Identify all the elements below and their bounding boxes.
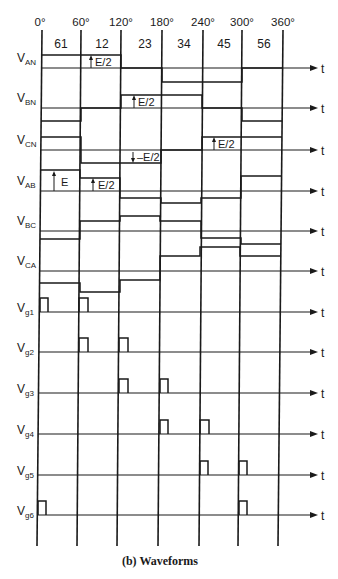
interval-label: 61: [54, 37, 68, 51]
angle-label-60: 60°: [72, 16, 89, 28]
van-step-label: E/2: [95, 56, 112, 68]
t-label: t: [321, 144, 325, 158]
signal-label-vg5: Vg5: [17, 464, 34, 480]
vab-half-label: E/2: [98, 179, 115, 191]
signal-label-vab: VAB: [17, 174, 36, 190]
signal-label-vg2: Vg2: [17, 341, 34, 357]
t-label: t: [321, 469, 325, 483]
angle-label-300: 300°: [230, 16, 254, 28]
gate-pulse-g4: [200, 420, 209, 434]
signal-label-van: VAN: [17, 51, 36, 67]
gate-pulses: [38, 298, 247, 515]
figure-caption: (b) Waveforms: [122, 554, 198, 568]
t-label: t: [321, 102, 325, 116]
waveform-diagram: 0° 60° 120° 180° 240° 300° 360° 61 12 23…: [0, 0, 338, 579]
gate-pulse-g3: [160, 379, 168, 393]
angle-label-240: 240°: [191, 16, 215, 28]
vcn-pos-step-label: E/2: [218, 138, 235, 150]
gate-pulse-g6: [239, 501, 247, 515]
t-label: t: [321, 225, 325, 239]
signal-label-vbc: VBC: [17, 214, 36, 230]
interval-label: 23: [138, 37, 152, 51]
interval-label: 34: [177, 37, 191, 51]
angle-labels: 0° 60° 120° 180° 240° 300° 360°: [35, 16, 295, 28]
gate-pulse-g3: [119, 379, 128, 393]
gate-pulse-g5: [200, 461, 208, 475]
gate-pulse-g2: [119, 338, 128, 352]
gate-pulse-g6: [38, 501, 46, 515]
t-label: t: [321, 265, 325, 279]
signal-label-vca: VCA: [17, 254, 37, 270]
signal-label-vg3: Vg3: [17, 382, 34, 398]
signal-label-vbn: VBN: [17, 91, 36, 107]
interval-label: 12: [95, 37, 109, 51]
interval-label: 45: [217, 37, 231, 51]
vbn-step-label: E/2: [138, 96, 155, 108]
angle-label-180: 180°: [150, 16, 174, 28]
gate-pulse-g1: [40, 298, 48, 312]
signal-label-vcn: VCN: [17, 133, 37, 149]
signal-labels: VAN VBN VCN VAB VBC VCA Vg1 Vg2 Vg3 Vg4 …: [17, 51, 37, 520]
signal-label-vg6: Vg6: [17, 504, 34, 520]
t-label: t: [321, 509, 325, 523]
vcn-neg-step-label: –E/2: [137, 151, 160, 163]
t-label: t: [321, 306, 325, 320]
signal-label-vg4: Vg4: [17, 423, 34, 439]
interval-label: 56: [257, 37, 271, 51]
gate-pulse-g2: [79, 338, 88, 352]
t-labels: t t t t t t t t t t t t: [321, 62, 325, 523]
angle-label-360: 360°: [271, 16, 295, 28]
vertical-gridlines: [37, 30, 283, 546]
gate-pulse-g1: [79, 298, 88, 312]
angle-label-0: 0°: [35, 16, 46, 28]
gate-pulse-g4: [160, 420, 168, 434]
vab-full-label: E: [61, 176, 68, 188]
t-label: t: [321, 346, 325, 360]
t-label: t: [321, 387, 325, 401]
t-label: t: [321, 62, 325, 76]
t-label: t: [321, 428, 325, 442]
gate-pulse-g5: [239, 461, 247, 475]
signal-label-vg1: Vg1: [17, 301, 34, 317]
angle-label-120: 120°: [109, 16, 133, 28]
t-label: t: [321, 185, 325, 199]
